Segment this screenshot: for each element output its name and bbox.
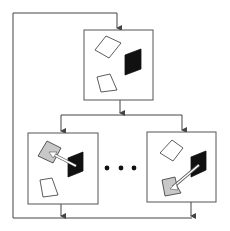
branch-connector <box>61 100 182 131</box>
ellipsis-dots <box>105 166 137 171</box>
top-scene-box <box>84 30 153 100</box>
candidate-left-box <box>28 133 98 204</box>
flow-diagram: • • • <box>0 0 230 231</box>
candidate-right-box <box>147 132 216 202</box>
